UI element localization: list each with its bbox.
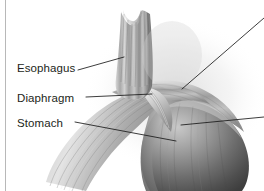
- label-diaphragm: Diaphragm: [17, 93, 74, 105]
- cast-shadow: [142, 21, 202, 89]
- anatomy-figure: Esophagus Diaphragm Stomach: [0, 0, 264, 191]
- label-stomach: Stomach: [17, 118, 63, 130]
- label-esophagus: Esophagus: [17, 63, 75, 75]
